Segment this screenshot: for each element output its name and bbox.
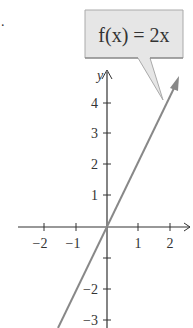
y-tick-label: −3 xyxy=(83,313,98,328)
y-tick-label: 2 xyxy=(91,157,98,172)
callout-text: f(x) = 2x xyxy=(98,24,169,47)
y-tick-label: −2 xyxy=(83,282,98,297)
problem-marker: . xyxy=(1,14,5,29)
x-tick-label: 2 xyxy=(167,236,174,251)
function-callout: f(x) = 2x xyxy=(85,10,183,100)
y-axis: y 4 3 2 1 −2 −3 xyxy=(83,68,112,328)
y-tick-label: 3 xyxy=(91,126,98,141)
y-tick-label: 1 xyxy=(91,188,98,203)
x-axis: −2 −1 1 2 xyxy=(18,223,190,251)
graph: . f(x) = 2x −2 −1 1 2 y 4 3 2 1 −2 xyxy=(0,0,193,328)
x-tick-label: 1 xyxy=(135,236,142,251)
x-tick-label: −1 xyxy=(66,236,81,251)
y-axis-label: y xyxy=(95,68,104,83)
x-tick-label: −2 xyxy=(33,236,48,251)
y-tick-label: 4 xyxy=(91,96,98,111)
function-line xyxy=(58,76,179,328)
